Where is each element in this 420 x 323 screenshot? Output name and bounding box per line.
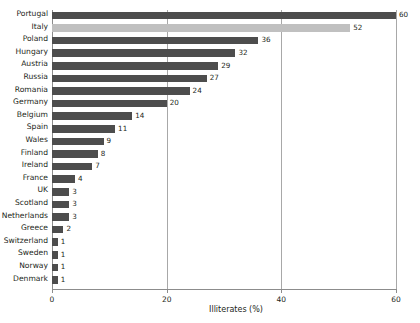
category-label-austria: Austria [0, 60, 48, 69]
category-label-switzerland: Switzerland [0, 237, 48, 246]
bar-value-russia: 27 [210, 74, 219, 83]
x-tick-40 [281, 289, 282, 293]
category-label-france: France [0, 174, 48, 183]
category-label-russia: Russia [0, 73, 48, 82]
category-label-denmark: Denmark [0, 275, 48, 284]
bar-row: Ireland7 [0, 161, 420, 174]
bar-row: Norway1 [0, 262, 420, 275]
bar-norway [52, 264, 58, 272]
x-tick-label-0: 0 [37, 295, 67, 304]
bar-wales [52, 138, 104, 146]
bar-row: Netherlands3 [0, 212, 420, 225]
bar-row: Greece2 [0, 224, 420, 237]
bar-value-wales: 9 [107, 137, 112, 146]
bar-row: Spain11 [0, 123, 420, 136]
bar-value-netherlands: 3 [72, 213, 77, 222]
bar-value-romania: 24 [193, 87, 202, 96]
category-label-wales: Wales [0, 136, 48, 145]
category-label-poland: Poland [0, 35, 48, 44]
category-label-netherlands: Netherlands [0, 212, 48, 221]
bar-value-spain: 11 [118, 125, 127, 134]
bar-uk [52, 188, 69, 196]
category-label-germany: Germany [0, 98, 48, 107]
bar-value-greece: 2 [66, 225, 71, 234]
x-tick-label-40: 40 [266, 295, 296, 304]
bar-row: France4 [0, 174, 420, 187]
x-tick-0 [52, 289, 53, 293]
x-tick-60 [396, 289, 397, 293]
bar-finland [52, 150, 98, 158]
bar-austria [52, 62, 218, 70]
category-label-portugal: Portugal [0, 10, 48, 19]
category-label-uk: UK [0, 186, 48, 195]
bar-germany [52, 100, 167, 108]
bar-belgium [52, 112, 132, 120]
bar-row: Wales9 [0, 136, 420, 149]
bar-row: Germany20 [0, 98, 420, 111]
bar-value-italy: 52 [353, 24, 362, 33]
category-label-greece: Greece [0, 224, 48, 233]
bar-netherlands [52, 213, 69, 221]
bar-row: Russia27 [0, 73, 420, 86]
category-label-hungary: Hungary [0, 48, 48, 57]
bar-row: Austria29 [0, 60, 420, 73]
bar-value-hungary: 32 [238, 49, 247, 58]
bar-value-norway: 1 [61, 263, 66, 272]
x-axis-line [52, 289, 397, 290]
bar-hungary [52, 49, 235, 57]
bar-value-portugal: 60 [399, 11, 408, 20]
bar-france [52, 175, 75, 183]
bar-row: Poland36 [0, 35, 420, 48]
category-label-italy: Italy [0, 23, 48, 32]
x-tick-label-20: 20 [152, 295, 182, 304]
category-label-ireland: Ireland [0, 161, 48, 170]
illiterates-bar-chart: Illiterates (%) 0204060Portugal60Italy52… [0, 0, 420, 323]
category-label-finland: Finland [0, 149, 48, 158]
category-label-scotland: Scotland [0, 199, 48, 208]
bar-row: Scotland3 [0, 199, 420, 212]
bar-spain [52, 125, 115, 133]
bar-value-denmark: 1 [61, 276, 66, 285]
bar-value-austria: 29 [221, 62, 230, 71]
bar-ireland [52, 163, 92, 171]
bar-romania [52, 87, 190, 95]
bar-value-belgium: 14 [135, 112, 144, 121]
bar-sweden [52, 251, 58, 259]
x-tick-label-60: 60 [381, 295, 411, 304]
bar-row: Switzerland1 [0, 237, 420, 250]
bar-greece [52, 226, 63, 234]
bar-value-germany: 20 [170, 99, 179, 108]
bar-value-sweden: 1 [61, 251, 66, 260]
bar-denmark [52, 276, 58, 284]
category-label-belgium: Belgium [0, 111, 48, 120]
category-label-spain: Spain [0, 123, 48, 132]
bar-scotland [52, 201, 69, 209]
category-label-norway: Norway [0, 262, 48, 271]
bar-row: Romania24 [0, 86, 420, 99]
bar-row: Portugal60 [0, 10, 420, 23]
bar-value-finland: 8 [101, 150, 106, 159]
bar-row: Belgium14 [0, 111, 420, 124]
bar-russia [52, 75, 207, 83]
bar-value-switzerland: 1 [61, 238, 66, 247]
bar-row: Italy52 [0, 23, 420, 36]
bar-value-ireland: 7 [95, 162, 100, 171]
bar-row: Hungary32 [0, 48, 420, 61]
bar-value-uk: 3 [72, 188, 77, 197]
bar-value-scotland: 3 [72, 200, 77, 209]
bar-row: Finland8 [0, 149, 420, 162]
x-tick-20 [167, 289, 168, 293]
category-label-romania: Romania [0, 86, 48, 95]
bar-row: Denmark1 [0, 275, 420, 288]
bar-switzerland [52, 238, 58, 246]
bar-portugal [52, 12, 396, 20]
bar-row: UK3 [0, 186, 420, 199]
bar-poland [52, 37, 258, 45]
x-axis-title: Illiterates (%) [0, 305, 420, 315]
category-label-sweden: Sweden [0, 249, 48, 258]
bar-value-poland: 36 [261, 36, 270, 45]
bar-italy [52, 24, 350, 32]
bar-value-france: 4 [78, 175, 83, 184]
bar-row: Sweden1 [0, 249, 420, 262]
